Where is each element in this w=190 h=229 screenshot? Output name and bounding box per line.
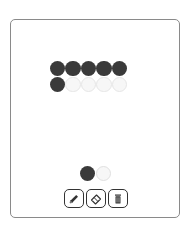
grid-cell[interactable]: [112, 77, 127, 92]
grid-cell[interactable]: [81, 61, 96, 76]
grid-cell[interactable]: [81, 77, 96, 92]
eraser-button[interactable]: [86, 189, 106, 208]
color-palette: [80, 166, 112, 181]
grid-cell[interactable]: [65, 61, 80, 76]
grid-cell[interactable]: [96, 77, 111, 92]
eraser-icon: [90, 193, 102, 205]
grid-cell[interactable]: [65, 77, 80, 92]
toolbar: [64, 189, 128, 208]
swatch-dark[interactable]: [80, 166, 95, 181]
trash-button[interactable]: [108, 189, 128, 208]
pixel-grid[interactable]: [50, 61, 127, 92]
grid-cell[interactable]: [96, 61, 111, 76]
swatch-light[interactable]: [96, 166, 111, 181]
grid-cell[interactable]: [112, 61, 127, 76]
grid-cell[interactable]: [50, 61, 65, 76]
grid-cell[interactable]: [50, 77, 65, 92]
trash-icon: [112, 193, 124, 205]
grid-row: [50, 61, 127, 77]
grid-row: [50, 77, 127, 93]
pencil-button[interactable]: [64, 189, 84, 208]
pencil-icon: [68, 193, 80, 205]
